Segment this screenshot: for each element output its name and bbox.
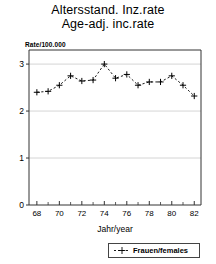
x-tick-label: 74 <box>100 209 109 218</box>
x-tick-label: 72 <box>77 209 86 218</box>
y-tick-label: 2 <box>19 106 24 116</box>
x-tick-label: 76 <box>122 209 131 218</box>
y-tick-label: 1 <box>19 153 24 163</box>
x-tick-label: 78 <box>145 209 154 218</box>
legend-marker-icon <box>114 246 130 255</box>
x-axis-title: Jahr/year <box>97 224 133 234</box>
y-tick-label: 3 <box>19 59 24 69</box>
chart-canvas: 01236870727476788082Jahr/year <box>0 0 216 264</box>
x-tick-label: 80 <box>167 209 176 218</box>
x-tick-label: 70 <box>55 209 64 218</box>
x-tick-label: 82 <box>190 209 199 218</box>
plot-area: 01236870727476788082Jahr/year <box>0 0 216 264</box>
chart-legend: Frauen/females <box>108 243 200 258</box>
legend-entry-label: Frauen/females <box>133 246 188 255</box>
y-tick-label: 0 <box>19 200 24 210</box>
x-tick-label: 68 <box>32 209 41 218</box>
